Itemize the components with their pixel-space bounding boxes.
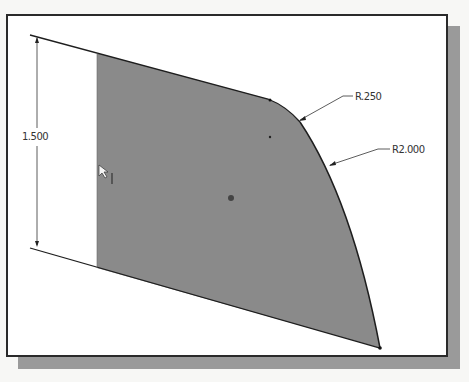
fillet-radius-dimension[interactable]: R.250 — [299, 91, 381, 121]
origin-point[interactable] — [228, 195, 234, 201]
arc-center-point[interactable] — [269, 136, 271, 138]
arc-radius-label: R2.000 — [392, 144, 425, 155]
sketch-canvas[interactable]: 1.500 R.250 R2.000 — [0, 0, 469, 382]
arc-radius-dimension[interactable]: R2.000 — [329, 144, 425, 166]
height-dimension[interactable]: 1.500 — [22, 37, 48, 247]
sketch-region[interactable] — [97, 53, 380, 348]
arrow-icon — [299, 116, 306, 121]
arrow-down-icon — [35, 241, 39, 247]
end-point[interactable] — [378, 346, 382, 350]
height-dimension-label: 1.500 — [22, 131, 48, 142]
tangent-point[interactable] — [269, 99, 272, 102]
fillet-radius-label: R.250 — [355, 91, 381, 102]
arrow-icon — [329, 161, 336, 166]
